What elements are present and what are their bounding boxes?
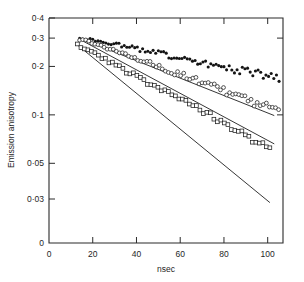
data-point (222, 65, 225, 68)
data-point (133, 46, 136, 49)
data-point (184, 99, 188, 103)
data-point (230, 68, 233, 71)
data-point (272, 77, 275, 80)
data-point (196, 63, 199, 66)
data-point (76, 42, 80, 46)
y-origin-label: 0 (39, 238, 44, 248)
data-point (247, 134, 251, 138)
data-point (243, 94, 247, 98)
data-point (136, 45, 139, 48)
data-point (238, 72, 241, 75)
data-point (267, 75, 270, 78)
data-point (149, 51, 152, 54)
data-point (91, 38, 94, 41)
data-point (133, 55, 137, 59)
y-tick-label-0: 0·4 (32, 13, 45, 23)
x-tick-label-1: 20 (88, 249, 98, 259)
data-point (157, 63, 161, 67)
data-point (165, 52, 168, 55)
data-point (236, 68, 239, 71)
data-point (121, 66, 125, 70)
y-tick-label-3: 0·1 (32, 110, 45, 120)
data-point (215, 85, 219, 89)
data-point (246, 67, 249, 70)
data-point (183, 56, 186, 59)
data-point (148, 60, 152, 64)
data-point (252, 104, 256, 108)
data-point (194, 59, 197, 62)
y-tick-label-2: 0·2 (32, 61, 45, 71)
data-point (209, 62, 212, 65)
data-point (123, 44, 126, 47)
x-tick-label-4: 80 (219, 249, 229, 259)
data-point (167, 57, 170, 60)
data-point (97, 53, 101, 57)
data-point (182, 71, 186, 75)
data-point (156, 85, 160, 89)
data-point (186, 57, 189, 60)
data-point (188, 58, 191, 61)
data-point (162, 50, 165, 53)
data-point (240, 129, 244, 133)
data-point (112, 42, 115, 45)
data-point (243, 67, 246, 70)
data-point (275, 73, 278, 76)
data-point (268, 146, 272, 150)
data-point (195, 104, 199, 108)
data-point (264, 101, 268, 105)
data-point (199, 62, 202, 65)
anisotropy-decay-chart: 0·40·30·20·10·050·030 020406080100 Emiss… (0, 0, 304, 282)
data-point (225, 68, 228, 71)
data-point (110, 43, 113, 46)
data-point (117, 42, 120, 45)
x-tick-label-5: 100 (261, 249, 275, 259)
data-point (144, 50, 147, 53)
data-point (175, 57, 178, 60)
y-axis-title: Emission anisotropy (6, 91, 16, 168)
y-tick-label-1: 0·3 (32, 33, 45, 43)
data-point (107, 43, 110, 46)
data-point (104, 56, 108, 60)
data-point (138, 50, 141, 53)
data-point (270, 72, 273, 75)
data-point (209, 111, 213, 115)
data-point (176, 70, 180, 74)
data-point (257, 68, 260, 71)
data-point (241, 66, 244, 69)
data-point (131, 44, 134, 47)
data-point (154, 52, 157, 55)
data-point (255, 101, 259, 105)
data-point (278, 80, 281, 83)
data-point (207, 65, 210, 68)
data-point (226, 123, 230, 127)
data-point (264, 74, 267, 77)
data-point (120, 45, 123, 48)
data-point (259, 71, 262, 74)
y-tick-label-5: 0·03 (27, 194, 44, 204)
data-point (228, 64, 231, 67)
data-point (173, 73, 177, 77)
x-axis-title: nsec (157, 264, 176, 274)
data-point (170, 57, 173, 60)
x-tick-label-2: 40 (132, 249, 142, 259)
data-point (277, 108, 281, 112)
data-point (152, 49, 155, 52)
x-tick-label-3: 60 (175, 249, 185, 259)
data-point (233, 71, 236, 74)
figure-container: 0·40·30·20·10·050·030 020406080100 Emiss… (0, 0, 304, 282)
data-point (96, 39, 99, 42)
data-point (222, 86, 226, 90)
data-point (191, 60, 194, 63)
data-point (142, 78, 146, 82)
data-point (141, 47, 144, 50)
data-point (249, 97, 253, 101)
data-point (194, 75, 198, 79)
data-point (262, 77, 265, 80)
data-point (261, 141, 265, 145)
y-tick-label-4: 0·05 (27, 158, 44, 168)
x-tick-label-0: 0 (47, 249, 52, 259)
data-point (249, 71, 252, 74)
data-point (204, 60, 207, 63)
data-point (251, 74, 254, 77)
